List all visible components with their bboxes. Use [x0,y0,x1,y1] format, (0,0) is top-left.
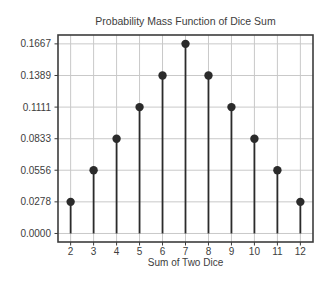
data-point-marker [181,40,189,48]
x-axis-label: Sum of Two Dice [148,257,224,268]
x-tick-label: 4 [114,246,120,257]
x-tick-label: 11 [272,246,283,257]
x-tick-label: 2 [68,246,74,257]
y-tick-label: 0.0833 [20,133,51,144]
pmf-figure: 234567891011120.00000.02780.05560.08330.… [0,0,328,289]
stem-series [66,40,304,234]
data-point-marker [204,71,212,79]
x-tick-label: 9 [229,246,235,257]
x-tick-label: 8 [206,246,212,257]
x-tick-label: 10 [249,246,261,257]
data-point-marker [296,198,304,206]
chart-title: Probability Mass Function of Dice Sum [95,15,276,27]
x-tick-label: 12 [295,246,307,257]
data-point-marker [135,103,143,111]
chart-canvas: 234567891011120.00000.02780.05560.08330.… [0,0,328,289]
data-point-marker [273,166,281,174]
x-tick-label: 3 [91,246,97,257]
x-tick-label: 5 [137,246,143,257]
y-tick-label: 0.1667 [20,38,51,49]
tick-layer [55,44,301,246]
y-tick-label: 0.0000 [20,228,51,239]
x-tick-label: 7 [183,246,189,257]
x-tick-label: 6 [160,246,166,257]
data-point-marker [158,71,166,79]
data-point-marker [89,166,97,174]
data-point-marker [227,103,235,111]
y-tick-label: 0.0556 [20,165,51,176]
data-point-marker [250,135,258,143]
y-tick-label: 0.1111 [23,102,52,113]
y-tick-label: 0.0278 [20,196,51,207]
y-tick-label: 0.1389 [20,70,51,81]
data-point-marker [66,198,74,206]
data-point-marker [112,135,120,143]
